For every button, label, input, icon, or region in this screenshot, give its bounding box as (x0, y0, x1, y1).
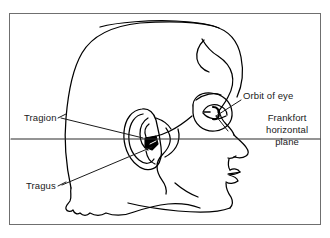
preauricular-jaw (165, 129, 179, 157)
label-frankfort-line-2: horizontal (266, 124, 308, 136)
label-frankfort-horizontal-plane: Frankfort horizontal plane (266, 112, 308, 148)
chin (226, 183, 232, 208)
nostril (228, 156, 236, 158)
label-orbit-of-eye: Orbit of eye (243, 90, 293, 102)
label-frankfort-line-3: plane (266, 136, 308, 148)
eye-lower-lid (203, 113, 226, 119)
cheek-crease (175, 183, 198, 197)
label-frankfort-line-1: Frankfort (266, 112, 308, 124)
figure-root: Tragion Tragus Orbit of eye Frankfort ho… (0, 0, 330, 238)
philtrum (228, 159, 230, 170)
nose-profile (234, 135, 248, 158)
label-tragus: Tragus (26, 180, 56, 192)
tragion-leader-line (61, 118, 143, 138)
mouth-line (228, 172, 240, 174)
eye-iris (213, 107, 219, 119)
temple-hair-curl (197, 40, 209, 72)
beard-edge (157, 128, 170, 194)
tragion-leader-tick (58, 114, 66, 118)
label-tragion: Tragion (24, 112, 57, 124)
lower-lip (226, 175, 238, 183)
